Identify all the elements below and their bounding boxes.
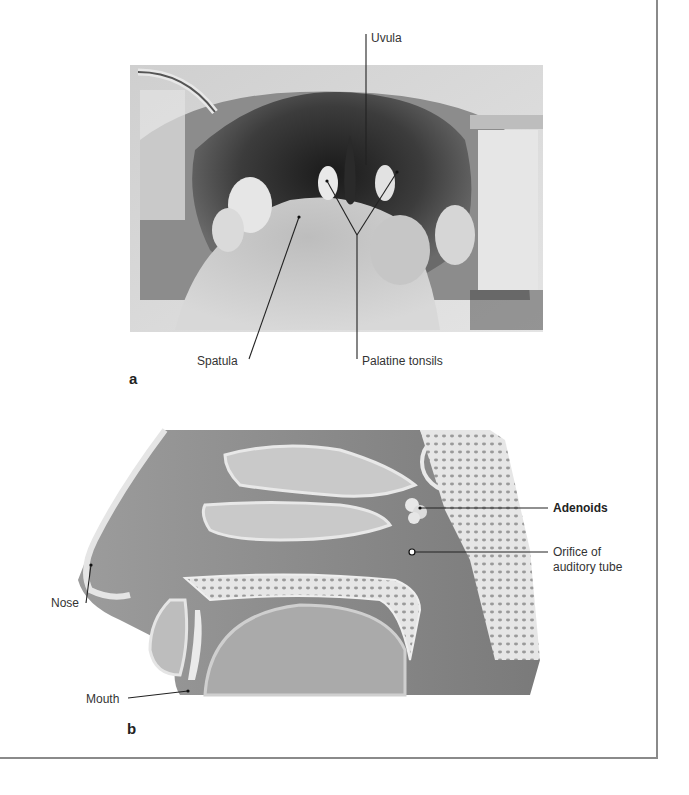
label-adenoids: Adenoids [553,501,608,515]
label-nose: Nose [51,596,79,610]
leader-lines [0,0,689,795]
label-palatine-tonsils: Palatine tonsils [362,354,443,368]
label-uvula: Uvula [371,31,402,45]
label-mouth: Mouth [86,692,119,706]
label-orifice-line2: auditory tube [553,560,622,574]
panel-letter-a: a [129,370,137,387]
panel-letter-b: b [127,720,136,737]
label-orifice-line1: Orifice of [553,545,601,559]
label-spatula: Spatula [197,354,238,368]
